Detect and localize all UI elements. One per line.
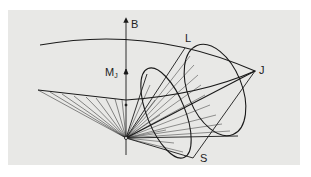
label-mj-sub: J <box>114 72 118 79</box>
label-j: J <box>259 64 265 76</box>
vector-precession-diagram <box>0 0 311 177</box>
left-fan <box>38 90 126 138</box>
small-cone-rim <box>130 61 201 164</box>
label-s: S <box>200 152 207 164</box>
mj-marker-icon <box>124 69 128 74</box>
large-cone-rim <box>172 35 258 144</box>
label-b: B <box>131 18 138 30</box>
label-mj-main: M <box>105 66 114 78</box>
label-mj: MJ <box>105 66 118 78</box>
label-l: L <box>185 32 191 44</box>
